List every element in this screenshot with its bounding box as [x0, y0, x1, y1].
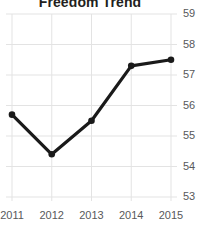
y-axis-tick-label: 58 — [183, 38, 195, 50]
x-axis-tick-label: 2015 — [151, 209, 191, 221]
y-axis-tick-label: 57 — [183, 68, 195, 80]
y-axis-tick-label: 55 — [183, 129, 195, 141]
line-chart: Freedom Trend 59585756555453 20112012201… — [0, 0, 204, 229]
y-axis-tick-label: 56 — [183, 99, 195, 111]
y-axis-tick-label: 54 — [183, 160, 195, 172]
x-axis-tick-label: 2012 — [32, 209, 72, 221]
y-axis-tick-label: 59 — [183, 7, 195, 19]
data-point-marker — [9, 111, 16, 118]
data-point-marker — [48, 151, 55, 158]
x-axis-tick-label: 2014 — [111, 209, 151, 221]
data-point-marker — [128, 63, 135, 70]
chart-plot-area — [0, 0, 204, 229]
vertical-gridlines — [12, 14, 171, 201]
x-axis-tick-label: 2011 — [0, 209, 32, 221]
x-axis-tick-label: 2013 — [72, 209, 112, 221]
data-point-marker — [88, 117, 95, 124]
y-axis-tick-label: 53 — [183, 190, 195, 202]
data-point-marker — [168, 56, 175, 63]
